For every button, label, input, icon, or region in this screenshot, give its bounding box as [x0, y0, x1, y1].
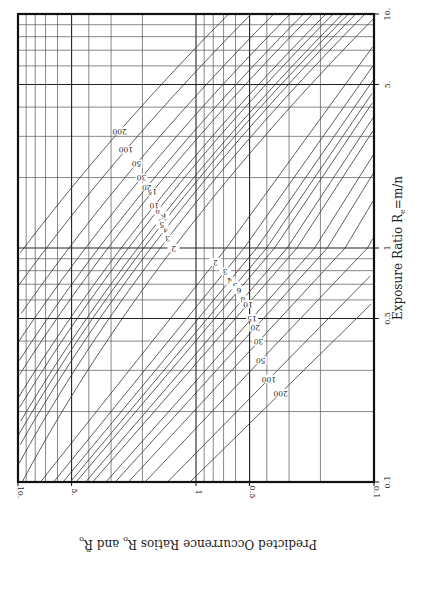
- nomograph-chart: 2345681015203050100200234568101520305010…: [0, 0, 427, 603]
- curve-upper-100: [19, 14, 251, 285]
- curve-label: 30: [136, 173, 146, 182]
- curve-label: 2: [213, 258, 218, 267]
- curve-upper-2: [22, 19, 373, 482]
- curve-label: 15: [247, 314, 257, 323]
- curve-label: 50: [256, 356, 266, 365]
- predicted-tick-label: 5.: [70, 488, 79, 496]
- curve-labels: 2345681015203050100200234568101520305010…: [112, 127, 287, 398]
- exposure-tick-label: 0.1: [383, 476, 392, 489]
- grid-lines: [18, 14, 374, 482]
- curve-lower-10: [93, 131, 373, 482]
- curve-label: 200: [112, 127, 127, 136]
- curve-label: 10: [243, 300, 253, 309]
- exposure-axis-title: Exposure Ratio Re=m/n: [391, 176, 407, 320]
- curve-label: 6: [236, 286, 241, 295]
- curve-upper-5: [18, 14, 348, 435]
- curve-label: 50: [132, 159, 142, 168]
- curve-label: 10: [149, 201, 159, 210]
- curve-label: 3: [222, 267, 227, 276]
- curve-label: 100: [261, 375, 276, 384]
- curve-label: 100: [119, 145, 134, 154]
- curve-label: 20: [142, 183, 152, 192]
- curve-lower-20: [115, 173, 373, 482]
- exposure-tick-label: 5.: [383, 81, 392, 89]
- curve-label: 200: [273, 389, 288, 398]
- exposure-tick-label: 10.: [383, 8, 392, 21]
- predicted-tick-label: 1: [194, 489, 203, 494]
- curve-label: 20: [250, 323, 260, 332]
- curve-lower-8: [86, 117, 374, 482]
- predicted-tick-label: 10.: [16, 486, 25, 499]
- predicted-tick-label: 0.1: [372, 486, 381, 499]
- curve-lower-6: [76, 103, 372, 482]
- curve-label: 3: [165, 234, 170, 243]
- curve-label: 5: [159, 220, 164, 229]
- predicted-axis-title: Predicted Occurrence Ratios Ro and R̃o: [79, 535, 317, 552]
- predicted-tick-label: 0.5: [248, 486, 257, 499]
- curve-upper-15: [20, 14, 313, 374]
- curve-lower-4: [63, 80, 374, 482]
- curve-label: 30: [253, 337, 263, 346]
- curve-label: 2: [171, 244, 176, 253]
- curve-upper-6: [21, 14, 343, 421]
